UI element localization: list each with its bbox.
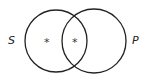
label-s: S [8,35,15,46]
asterisk-s-only: * [44,37,50,48]
asterisk-intersection: * [72,37,78,48]
label-p: P [132,35,139,46]
